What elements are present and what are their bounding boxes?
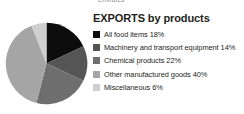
legend-swatch-icon <box>93 31 100 38</box>
legend-title: EXPORTS by products <box>93 12 244 25</box>
legend-item-label: All food items 18% <box>104 30 164 39</box>
legend-item-chemical-products[interactable]: Chemical products 22% <box>92 54 244 67</box>
legend-item-miscellaneous[interactable]: Miscellaneous 6% <box>92 81 244 94</box>
clipped-caption-text: Emirates <box>98 0 178 4</box>
pie-chart <box>4 19 90 109</box>
legend-swatch-icon <box>93 44 100 51</box>
legend-item-machinery-and-transport-equipment[interactable]: Machinery and transport equipment 14% <box>92 41 244 54</box>
pie-slices <box>6 23 87 104</box>
legend-item-label: Miscellaneous 6% <box>104 83 163 92</box>
legend-item-label: Chemical products 22% <box>104 56 181 65</box>
pie-chart-svg <box>4 19 90 109</box>
legend-item-label: Other manufactured goods 40% <box>104 70 207 79</box>
pie-chart-figure: Emirates EXPORTS by products All food it… <box>0 0 244 114</box>
legend: EXPORTS by products All food items 18% M… <box>92 12 244 94</box>
legend-swatch-icon <box>93 57 100 64</box>
legend-item-all-food-items[interactable]: All food items 18% <box>92 28 244 41</box>
legend-swatch-icon <box>93 84 100 91</box>
legend-item-other-manufactured-goods[interactable]: Other manufactured goods 40% <box>92 68 244 81</box>
legend-item-label: Machinery and transport equipment 14% <box>104 43 235 52</box>
legend-swatch-icon <box>93 71 100 78</box>
